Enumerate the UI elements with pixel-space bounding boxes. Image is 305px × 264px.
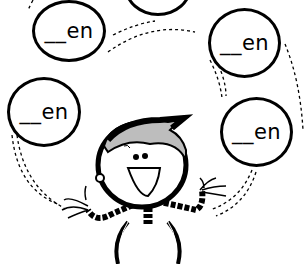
head	[96, 118, 186, 207]
juggler-character	[0, 0, 305, 264]
juggler-worksheet: __en __en __en __en	[0, 0, 305, 264]
legs	[116, 222, 179, 264]
